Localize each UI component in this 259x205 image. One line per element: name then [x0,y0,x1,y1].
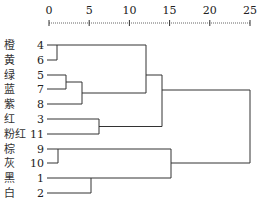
cluster-link [99,75,162,127]
leaf-id-label: 7 [37,83,44,96]
dendrogram: 0510152025 橙4黄6绿5蓝7紫8红3粉红11棕9灰10黑1白2 [0,0,259,205]
axis-tick-label: 20 [203,4,217,17]
axis-tick-label: 0 [46,4,53,17]
leaf-name-label: 灰 [4,156,15,170]
leaf-id-label: 2 [37,187,44,200]
cluster-link [57,45,146,93]
leaf-name-label: 橙 [4,38,15,52]
cluster-link [47,75,66,89]
axis-tick-label: 25 [243,4,257,17]
cluster-link [47,149,58,163]
leaf-id-label: 9 [37,143,44,156]
leaf-name-label: 绿 [4,68,15,82]
cluster-link [47,119,99,134]
leaf-id-label: 6 [37,54,44,67]
leaf-name-label: 粉红 [4,128,26,141]
leaf-name-label: 棕 [4,142,15,156]
cluster-link [47,82,82,104]
leaf-id-label: 1 [37,172,44,185]
leaf-name-label: 白 [4,186,15,200]
leaf-id-label: 5 [37,69,44,82]
distance-axis: 0510152025 [46,4,258,26]
dendrogram-links [47,45,250,193]
axis-tick-label: 5 [86,4,93,17]
leaf-id-label: 11 [30,128,44,141]
axis-tick-label: 15 [163,4,177,17]
leaf-id-label: 8 [37,98,44,111]
axis-tick-label: 10 [122,4,136,17]
cluster-link [47,45,57,60]
cluster-link [47,178,91,193]
leaf-name-label: 蓝 [4,83,15,96]
leaf-name-label: 紫 [4,98,15,111]
leaf-name-label: 红 [4,113,15,126]
leaf-id-label: 3 [37,113,44,126]
cluster-link [162,90,250,163]
leaf-name-label: 黑 [4,172,15,185]
leaf-id-label: 4 [37,39,44,52]
cluster-link [58,149,171,178]
leaf-labels: 橙4黄6绿5蓝7紫8红3粉红11棕9灰10黑1白2 [4,38,44,200]
leaf-id-label: 10 [30,157,44,170]
leaf-name-label: 黄 [4,53,15,67]
